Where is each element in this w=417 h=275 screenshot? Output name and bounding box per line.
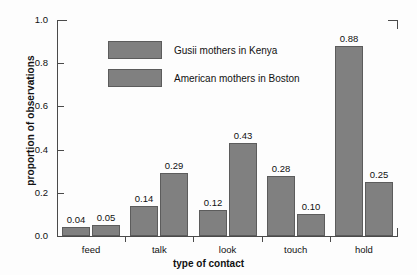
x-axis-separator-tick (125, 236, 126, 242)
bar (130, 206, 158, 236)
y-axis-tick (57, 106, 64, 107)
y-axis-tick-label: 0.2 (18, 187, 48, 198)
y-axis-tick (57, 193, 64, 194)
x-axis-line (57, 236, 398, 237)
y-axis-tick (57, 20, 64, 21)
frame-corner-top-right-vertical (397, 20, 398, 29)
bar (297, 214, 325, 236)
legend-label-gusii: Gusii mothers in Kenya (174, 45, 277, 56)
x-axis-separator-tick (193, 236, 194, 242)
bar-value-label: 0.29 (154, 160, 194, 171)
bar (199, 210, 227, 236)
y-axis-tick (57, 236, 64, 237)
x-axis-category-label: talk (125, 244, 193, 255)
bar (160, 173, 188, 236)
bar (62, 227, 90, 236)
legend-item: American mothers in Boston (108, 68, 300, 88)
bar-value-label: 0.12 (193, 197, 233, 208)
legend-label-american: American mothers in Boston (174, 73, 300, 84)
legend-swatch-american (108, 69, 162, 87)
y-axis-tick (57, 63, 64, 64)
y-axis-tick-label: 0.6 (18, 100, 48, 111)
bar-value-label: 0.05 (86, 212, 126, 223)
x-axis-category-label: feed (57, 244, 125, 255)
bar-value-label: 0.88 (329, 33, 369, 44)
x-axis-category-label: touch (262, 244, 330, 255)
x-axis-category-label: look (194, 244, 262, 255)
bar (229, 143, 257, 236)
bar (365, 182, 393, 236)
bar (92, 225, 120, 236)
bar-value-label: 0.10 (291, 201, 331, 212)
x-axis-category-label: hold (330, 244, 398, 255)
x-axis-separator-tick (330, 236, 331, 242)
y-axis-tick-label: 1.0 (18, 14, 48, 25)
bar (335, 46, 363, 236)
legend: Gusii mothers in Kenya American mothers … (108, 40, 300, 96)
y-axis-line (57, 20, 58, 237)
legend-item: Gusii mothers in Kenya (108, 40, 300, 60)
bar-value-label: 0.14 (124, 193, 164, 204)
y-axis-tick-label: 0.8 (18, 57, 48, 68)
y-axis-tick-label: 0.0 (18, 230, 48, 241)
bar-chart: proportion of observations 0.00.20.40.60… (0, 0, 417, 275)
y-axis-tick (57, 150, 64, 151)
frame-corner-bottom-right-vertical (397, 228, 398, 237)
x-axis-separator-tick (262, 236, 263, 242)
y-axis-tick-label: 0.4 (18, 144, 48, 155)
x-axis-title: type of contact (0, 258, 417, 269)
bar-value-label: 0.28 (261, 163, 301, 174)
bar-value-label: 0.25 (359, 169, 399, 180)
bar-value-label: 0.43 (223, 130, 263, 141)
legend-swatch-gusii (108, 41, 162, 59)
